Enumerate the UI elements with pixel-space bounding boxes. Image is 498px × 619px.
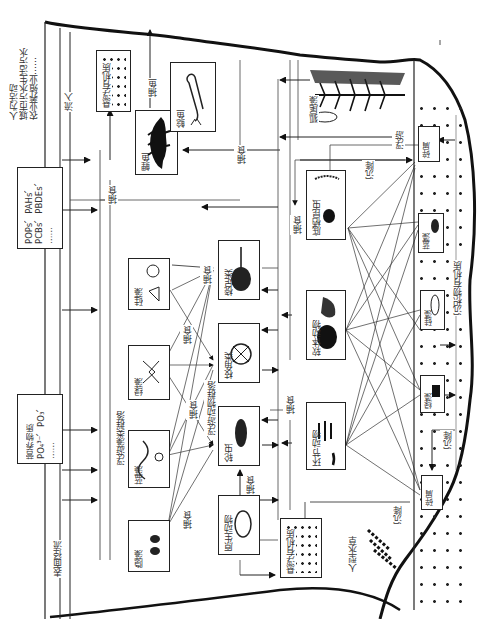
node-rotifers: 轮虫 (218, 406, 260, 466)
myriophyllum-plant (305, 65, 415, 125)
edge-label-predation: 捕食 (283, 395, 296, 415)
node-label: 软体动物 (309, 320, 322, 356)
node-label: 枝角类 (221, 352, 234, 379)
node-suspended-om-top: 悬浮有机质 (96, 50, 131, 112)
edge-label-fishing: 捕鱼 (145, 78, 158, 98)
node-benthic-blue-algae: 蓝藻 (418, 213, 444, 253)
edge-label-predation: 捕食 (180, 510, 193, 530)
node-label: 碎屑 (424, 490, 435, 506)
node-catfish: 鲶鱼 (170, 62, 216, 132)
source-line: 农业 (28, 102, 38, 120)
node-sediment-detritus-top: 碎屑 (418, 126, 440, 162)
group-zooplankton: 浮游动物群落 (204, 380, 217, 436)
node-label: 底栖昆虫 (309, 200, 322, 236)
edge-label-floating: 浮游 (392, 130, 405, 150)
sediment-zone (415, 100, 470, 605)
edge-label-predation: 捕食 (186, 400, 199, 420)
emergent-plant (360, 520, 410, 580)
node-sediment-detritus-bottom: 碎屑 (421, 475, 443, 510)
nutrient-line: PO₄³⁻、PO₃、 (36, 403, 46, 459)
plant-icon (305, 65, 415, 125)
edge-label-predation: 捕食 (200, 265, 213, 285)
human-activity-text: 人为活动 城市污水生活污水 农业养殖业…… (8, 55, 38, 120)
node-blue-algae: 蓝藻 (128, 430, 170, 488)
node-diatoms: 硅藻 (128, 258, 170, 310)
node-label: 蓝藻 (421, 233, 432, 249)
edge-label-predation: 捕食 (290, 215, 303, 235)
nutrient-line: 营养物质 (26, 423, 36, 459)
nutrients-text: 营养物质 PO₄³⁻、PO₃、 …… (26, 401, 56, 459)
node-label: 鲶鱼 (173, 110, 186, 128)
node-label: 轮虫 (221, 444, 234, 462)
runoff-label: 表面径流 (50, 540, 63, 578)
node-label: 环节动物 (309, 430, 322, 466)
node-label: 绿藻 (131, 378, 144, 396)
pollutants-box: POPs、PAHs、 PCBs、PBDEs、 …… (17, 167, 63, 249)
input-label: 流入 (61, 92, 74, 112)
pollutant-line: …… (44, 227, 54, 244)
node-label: 桡足类 (221, 269, 234, 296)
node-emergent-plants: 人型水草 (345, 535, 358, 573)
node-protozoa: 原生动物 (218, 495, 260, 555)
node-annelids: 环节动物 (306, 402, 346, 470)
node-benthic-insects: 底栖昆虫 (306, 170, 346, 240)
node-label: 绿藻 (423, 393, 434, 409)
pollutant-line: PCBs、PBDEs、 (34, 177, 44, 244)
edge-label-predation: 捕食 (243, 475, 256, 495)
emergent-plant-icon (360, 520, 410, 580)
edge-label-predation: 捕食 (180, 325, 193, 345)
node-label: 硅藻 (131, 288, 144, 306)
node-label: 隐藻 (131, 550, 144, 568)
node-benthic-diatoms: 硅藻 (420, 290, 445, 330)
node-cladocera: 枝角类 (218, 323, 260, 383)
node-sediment-om: 沉积物有机质 (450, 260, 463, 316)
node-label: 鲤鱼 (138, 153, 151, 171)
node-suspended-om-bottom: 悬浮有机质 (280, 518, 322, 578)
source-line: 城市污水 (18, 84, 28, 120)
pollutant-line: POPs、PAHs、 (24, 184, 34, 244)
node-label: 悬浮有机质 (283, 529, 296, 574)
group-phytoplankton: 浮游藻类群落 (113, 410, 126, 466)
edge-label-predation: 捕食 (234, 145, 247, 165)
nutrients-box: 营养物质 PO₄³⁻、PO₃、 …… (17, 394, 63, 464)
source-line: …… (28, 57, 38, 75)
node-label: 蓝藻 (131, 466, 144, 484)
source-line: 人为活动 (8, 84, 18, 120)
source-line: 养殖业 (28, 75, 38, 102)
nutrient-line: …… (46, 442, 56, 459)
pollutants-text: POPs、PAHs、 PCBs、PBDEs、 …… (24, 174, 54, 244)
node-label: 碎屑 (421, 142, 432, 158)
node-mollusks: 软体动物 (306, 290, 346, 360)
edge-label-sedimentation: 沉降 (440, 430, 453, 450)
node-label: 原生动物 (221, 515, 234, 551)
edge-label-predation: 捕食 (105, 185, 118, 205)
node-green-algae: 绿藻 (128, 345, 170, 400)
node-benthic-green-algae: 绿藻 (420, 375, 445, 413)
node-label: 硅藻 (423, 310, 434, 326)
node-cryptophytes: 隐藻 (128, 520, 170, 572)
edge-label-sedimentation: 沉降 (362, 160, 375, 180)
edge-label-sedimentation: 沉降 (390, 505, 403, 525)
node-myriophyllum: 狐尾藻 (306, 95, 319, 124)
node-copepods: 桡足类 (218, 240, 260, 300)
node-label: 悬浮有机质 (99, 63, 112, 108)
source-line: 生活污水 (18, 48, 28, 84)
